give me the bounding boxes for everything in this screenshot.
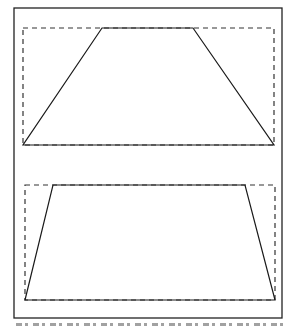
top-panel	[23, 28, 274, 145]
figure-caption-clipped	[16, 322, 286, 328]
solid-distorted-trapezoid	[23, 28, 274, 145]
figure-canvas	[0, 0, 296, 328]
figure-frame	[14, 8, 282, 318]
bottom-panel	[25, 185, 275, 300]
dashed-original-rect	[23, 28, 274, 145]
solid-distorted-trapezoid	[25, 185, 275, 300]
dashed-original-rect	[25, 185, 275, 300]
